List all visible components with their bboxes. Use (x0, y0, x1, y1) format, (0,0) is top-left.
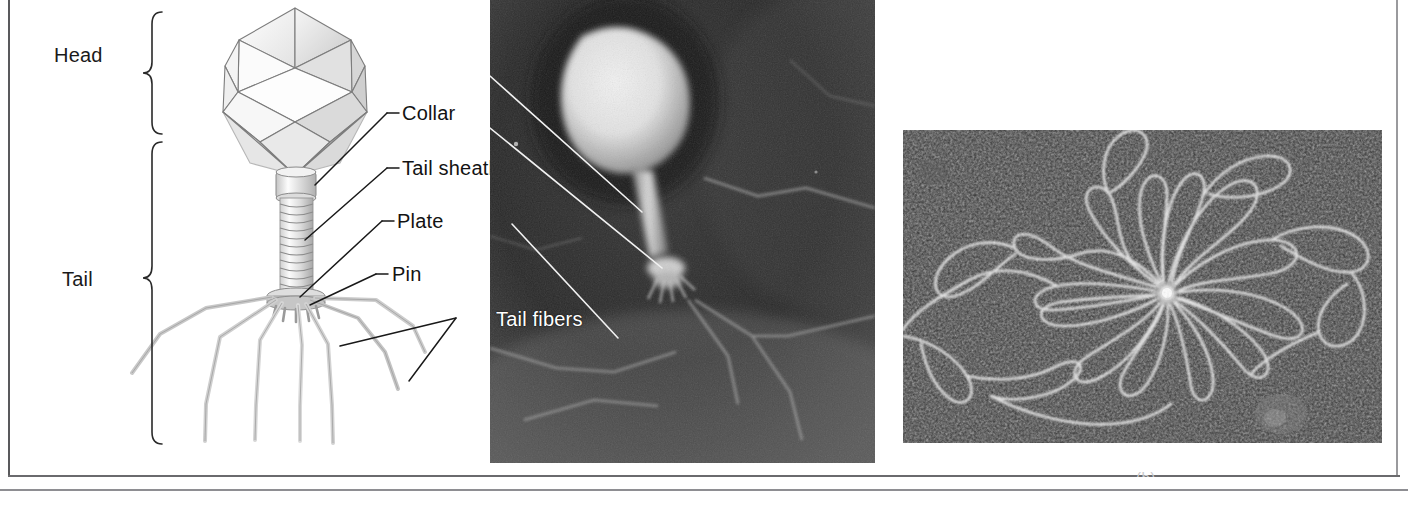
callout-label-collar: Collar (402, 102, 455, 125)
frame-border-right (1396, 0, 1398, 477)
callout-label-plate: Plate (397, 210, 444, 233)
tail-fibers-shape (132, 297, 425, 443)
tail-sheath-shape (280, 198, 313, 294)
phage-diagram-svg (10, 0, 490, 474)
phage-micrograph-panel (490, 0, 875, 463)
phage-dna-micrograph-svg (903, 130, 1382, 443)
brace-head (143, 12, 162, 134)
figure-caption: (b) (1136, 470, 1156, 477)
brace-label-head: Head (54, 44, 103, 67)
frame-border-bottom (8, 475, 1400, 477)
tail-fibers-outline (132, 297, 425, 443)
frame-border-bottom-secondary (0, 489, 1408, 491)
capsid-head (223, 8, 367, 175)
phage-dna-micrograph-panel (903, 130, 1382, 443)
figure-root: Head Tail Collar Tail sheath Plate Pin T… (0, 0, 1408, 507)
callout-label-tail-sheath: Tail sheath (402, 157, 500, 180)
phage-diagram-panel: Head Tail Collar Tail sheath Plate Pin (10, 0, 490, 474)
callout-label-tail-fibers: Tail fibers (496, 308, 583, 331)
callout-label-pin: Pin (392, 263, 422, 286)
brace-tail (143, 142, 162, 444)
brace-label-tail: Tail (62, 268, 93, 291)
phage-micrograph-svg (490, 0, 875, 463)
